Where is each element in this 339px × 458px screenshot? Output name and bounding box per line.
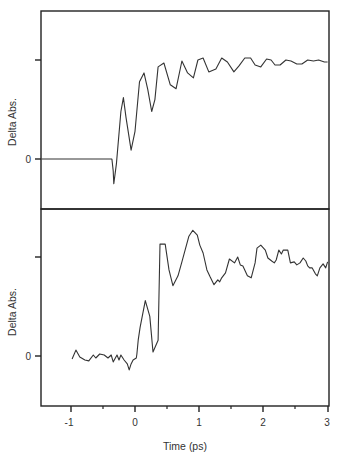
upper-ytick-label-zero: 0 (25, 154, 31, 165)
two-panel-line-chart: 0 Delta Abs. 0 Delta Abs. -1 0 1 2 3 Tim… (0, 0, 339, 458)
lower-data-line (72, 230, 328, 370)
lower-y-axis-label: Delta Abs. (6, 288, 18, 336)
upper-data-line (41, 58, 327, 184)
x-tick-label: 0 (132, 417, 138, 428)
upper-panel: 0 Delta Abs. (6, 11, 329, 209)
x-tick-label: 3 (324, 417, 330, 428)
lower-ytick-label-zero: 0 (25, 351, 31, 362)
lower-panel: 0 Delta Abs. (6, 209, 329, 406)
lower-plot-frame (41, 209, 329, 406)
x-tick-label: 1 (196, 417, 202, 428)
x-axis-label: Time (ps) (163, 440, 207, 452)
x-tick-label: -1 (65, 417, 74, 428)
x-tick-label: 2 (260, 417, 266, 428)
upper-plot-frame (41, 11, 329, 209)
x-axis: -1 0 1 2 3 Time (ps) (65, 406, 331, 452)
upper-y-axis-label: Delta Abs. (6, 98, 18, 146)
